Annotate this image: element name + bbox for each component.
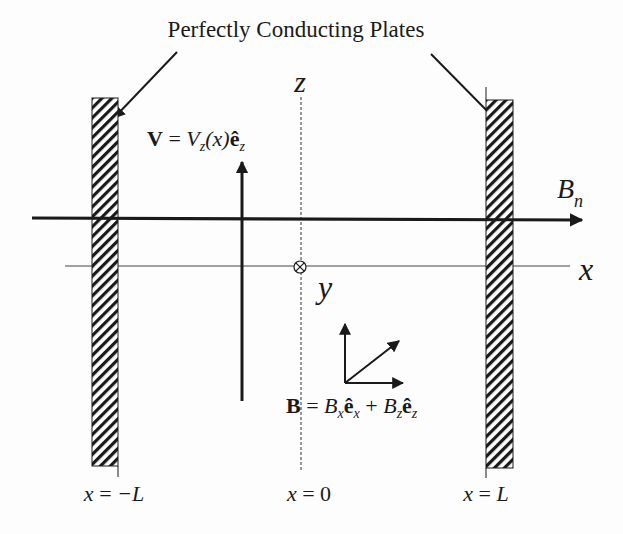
velocity-equation: V = Vz(x)êz [147, 126, 245, 154]
left-conducting-plate [92, 98, 118, 466]
position-label-center: x = 0 [286, 481, 331, 506]
position-label-right: x = L [462, 481, 508, 506]
diagram-canvas: Perfectly Conducting Plates z x y Bn [0, 0, 623, 534]
bn-label: Bn [557, 173, 583, 211]
left-plate-pointer-arrow [114, 52, 177, 118]
y-axis-into-page-icon [294, 261, 306, 273]
coordinate-triad-icon [345, 324, 403, 383]
magnetic-field-equation: B = Bxêx + Bzêz [286, 393, 418, 421]
title-label: Perfectly Conducting Plates [168, 17, 425, 42]
y-axis-label: y [315, 269, 333, 305]
z-axis-label: z [293, 65, 306, 98]
position-label-left: x = −L [83, 481, 144, 506]
bn-field-line-arrow [32, 218, 582, 220]
x-axis-label: x [578, 251, 593, 287]
right-conducting-plate [486, 100, 513, 468]
